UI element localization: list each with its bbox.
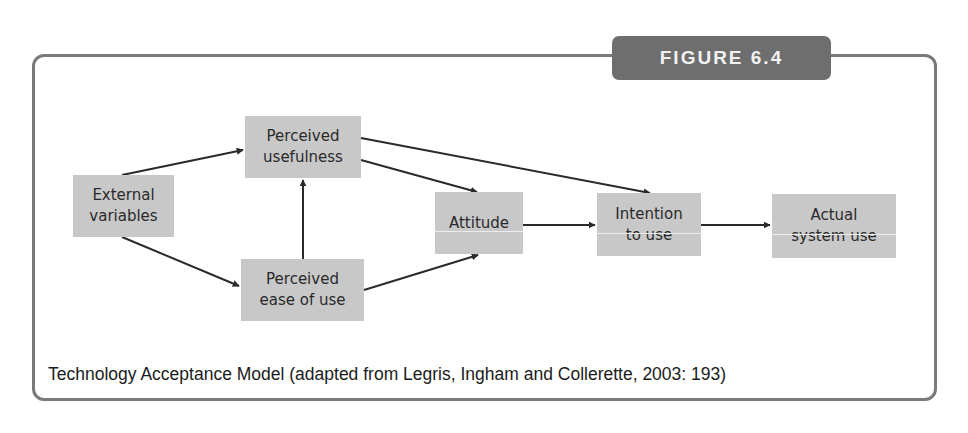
- node-label: Intention to use: [615, 204, 682, 246]
- node-external-variables: External variables: [73, 175, 174, 237]
- node-attitude: Attitude: [435, 192, 523, 254]
- node-label: Attitude: [449, 213, 509, 234]
- node-perceived-ease-of-use: Perceived ease of use: [241, 259, 364, 321]
- arrow-usefulness-to-attitude: [361, 160, 477, 192]
- node-label: Perceived usefulness: [263, 126, 343, 168]
- node-actual-system-use: Actual system use: [772, 194, 896, 258]
- node-label: External variables: [89, 185, 157, 227]
- arrow-usefulness-to-intention: [361, 138, 650, 193]
- arrow-external-to-usefulness: [122, 150, 243, 175]
- node-label: Actual system use: [791, 205, 877, 247]
- node-perceived-usefulness: Perceived usefulness: [245, 116, 361, 178]
- node-label: Perceived ease of use: [259, 269, 345, 311]
- node-intention-to-use: Intention to use: [597, 193, 701, 256]
- figure-caption: Technology Acceptance Model (adapted fro…: [48, 364, 726, 385]
- arrow-external-to-ease: [122, 237, 239, 286]
- arrow-ease-to-attitude: [364, 255, 478, 290]
